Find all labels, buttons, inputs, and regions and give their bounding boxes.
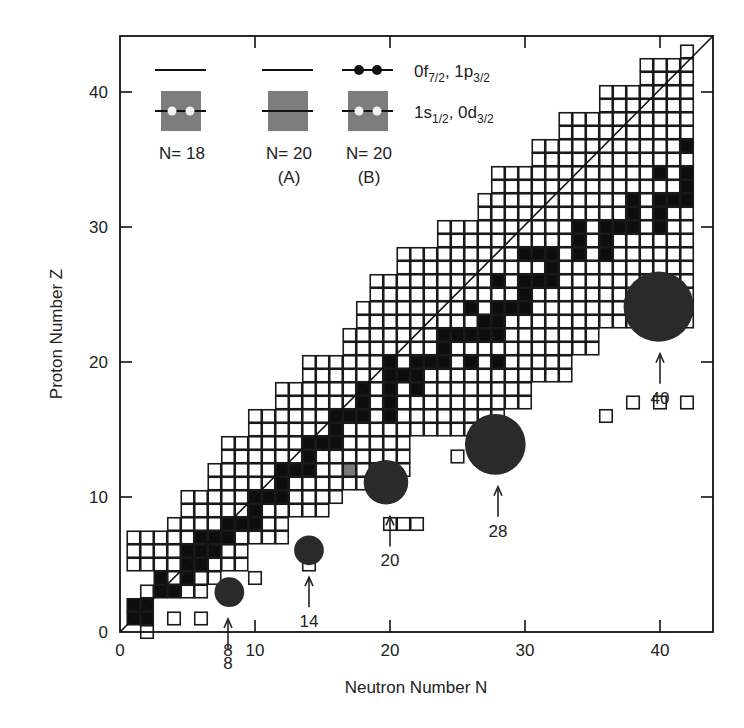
nuclide-cell	[343, 396, 356, 409]
nuclide-cell	[613, 153, 626, 166]
nuclide-cell	[438, 356, 451, 369]
nuclide-cell	[573, 302, 586, 315]
nuclide-cell	[424, 383, 437, 396]
nuclide-cell	[559, 140, 572, 153]
nuclide-cell	[519, 234, 532, 247]
nuclide-cell	[370, 342, 383, 355]
nuclide-cell	[586, 342, 599, 355]
nuclide-cell	[127, 599, 140, 612]
nuclide-cell	[222, 531, 235, 544]
config-sublabel: (B)	[358, 168, 381, 187]
nuclide-cell	[681, 207, 694, 220]
nuclide-cell	[397, 396, 410, 409]
nuclide-cell	[519, 221, 532, 234]
nuclide-cell	[465, 234, 478, 247]
nuclide-cell	[519, 383, 532, 396]
nuclide-cell	[478, 342, 491, 355]
nuclide-cell	[640, 99, 653, 112]
nuclide-cell	[438, 329, 451, 342]
nuclide-cell	[667, 113, 680, 126]
nuclide-cell	[451, 450, 464, 463]
nuclide-cell	[640, 234, 653, 247]
nuclide-cell	[586, 234, 599, 247]
nuclide-cell	[397, 288, 410, 301]
nuclide-cell	[546, 302, 559, 315]
nuclide-cell	[289, 410, 302, 423]
nuclide-cell	[303, 504, 316, 517]
nuclide-cell	[546, 167, 559, 180]
nuclide-cell	[600, 207, 613, 220]
nuclide-cell	[222, 477, 235, 490]
nuclide-cell	[370, 302, 383, 315]
magic-circle	[364, 460, 409, 505]
nuclide-cell	[559, 356, 572, 369]
nuclide-cell	[357, 329, 370, 342]
nuclide-cell	[370, 288, 383, 301]
nuclide-cell	[451, 342, 464, 355]
nuclide-cell	[600, 275, 613, 288]
nuclide-cell	[505, 329, 518, 342]
nuclide-cell	[424, 423, 437, 436]
particle-icon	[354, 65, 364, 75]
nuclide-cell	[559, 248, 572, 261]
nuclide-cell	[559, 342, 572, 355]
nuclide-cell	[168, 531, 181, 544]
nuclide-cell	[478, 275, 491, 288]
nuclide-cell	[451, 329, 464, 342]
nuclide-cell	[465, 261, 478, 274]
nuclide-cell	[532, 356, 545, 369]
nuclide-cell	[438, 342, 451, 355]
nuclide-cell	[519, 167, 532, 180]
nuclide-cell	[492, 315, 505, 328]
nuclide-cell	[330, 396, 343, 409]
nuclide-cell	[208, 504, 221, 517]
nuclide-cell	[397, 369, 410, 382]
nuclide-cell	[546, 248, 559, 261]
nuclide-cell	[519, 329, 532, 342]
nuclide-cell	[681, 221, 694, 234]
nuclide-cell	[424, 315, 437, 328]
nuclide-cell	[478, 369, 491, 382]
nuclide-cell	[357, 383, 370, 396]
nuclide-cell	[222, 504, 235, 517]
nuclide-cell	[640, 221, 653, 234]
nuclide-cell	[438, 221, 451, 234]
nuclide-cell	[397, 518, 410, 531]
nuclide-cell	[546, 261, 559, 274]
nuclide-cell	[586, 288, 599, 301]
x-tick-label: 40	[651, 641, 670, 660]
nuclide-cell	[343, 437, 356, 450]
legend: N= 18N= 20(A)N= 20(B)0f7/2, 1p3/21s1/2, …	[155, 62, 494, 187]
nuclide-cell	[546, 342, 559, 355]
nuclide-cell	[640, 59, 653, 72]
nuclide-cell	[532, 167, 545, 180]
nuclide-cell	[640, 126, 653, 139]
nuclide-cell	[451, 248, 464, 261]
nuclide-cell	[613, 86, 626, 99]
nuclide-cell	[397, 248, 410, 261]
nuclide-cell	[546, 194, 559, 207]
nuclide-cell	[573, 261, 586, 274]
nuclide-cell	[627, 396, 640, 409]
nuclide-cell	[559, 261, 572, 274]
nuclide-cell	[181, 504, 194, 517]
nuclide-cell	[208, 491, 221, 504]
nuclide-cell	[249, 504, 262, 517]
nuclide-cell	[411, 369, 424, 382]
nuclide-cell	[532, 275, 545, 288]
nuclide-cell	[397, 383, 410, 396]
nuclide-cell	[289, 464, 302, 477]
nuclide-cell	[573, 207, 586, 220]
nuclide-cell	[586, 140, 599, 153]
nuclide-cell	[667, 72, 680, 85]
nuclide-cell	[249, 572, 262, 585]
nuclide-cell	[154, 545, 167, 558]
x-tick-label: 0	[115, 641, 124, 660]
nuclide-cell	[573, 248, 586, 261]
nuclide-cell	[505, 369, 518, 382]
nuclide-cell	[438, 302, 451, 315]
nuclide-cell	[235, 464, 248, 477]
y-axis-label: Proton Number Z	[47, 269, 66, 399]
nuclide-cell	[222, 464, 235, 477]
nuclide-cell	[654, 167, 667, 180]
